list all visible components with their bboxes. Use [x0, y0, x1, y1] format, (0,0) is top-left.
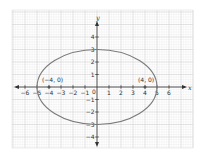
grid-border [12, 10, 193, 148]
ellipse-graph: x y −6−5−4−3−2−1123456 −4−3−2−11234 0 (−… [0, 0, 201, 158]
y-tick-label: 4 [91, 33, 95, 40]
y-tick-label: 1 [91, 71, 95, 78]
x-axis-left-arrow-icon [14, 85, 19, 89]
x-tick-label: 6 [167, 89, 171, 96]
x-axis-right-arrow-icon [182, 85, 187, 89]
y-tick-label: −4 [86, 133, 95, 140]
minor-grid [12, 10, 193, 148]
x-tick-label: 1 [107, 89, 111, 96]
focus-right-label: (4, 0) [138, 76, 154, 83]
y-tick-label: −2 [86, 108, 95, 115]
x-tick-label: 2 [119, 89, 123, 96]
focus-left-dot [48, 86, 51, 89]
x-tick-label: −6 [21, 89, 30, 96]
x-tick-label: 3 [131, 89, 135, 96]
x-tick-label: 4 [143, 89, 147, 96]
y-axis-name: y [95, 14, 100, 22]
y-tick-label: −1 [86, 96, 95, 103]
y-tick-label: 2 [91, 58, 95, 65]
focus-right-dot [144, 86, 147, 89]
x-tick-label: −3 [57, 89, 66, 96]
focus-left-label: (−4, 0) [42, 76, 63, 83]
x-tick-label: −2 [69, 89, 78, 96]
major-grid [12, 10, 193, 148]
x-tick-label: −4 [45, 89, 54, 96]
x-axis-name: x [188, 84, 192, 92]
origin-label: 0 [92, 88, 96, 95]
